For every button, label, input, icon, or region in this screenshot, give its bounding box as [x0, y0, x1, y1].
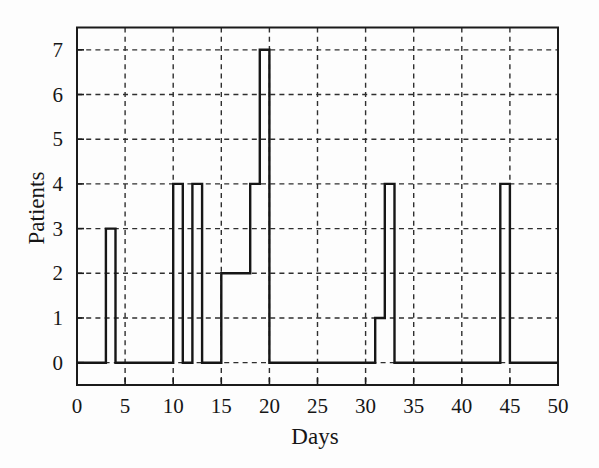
y-tick-labels: 01234567	[53, 38, 64, 375]
x-tick-label: 25	[307, 394, 328, 418]
y-tick-label: 1	[53, 306, 64, 330]
x-tick-label: 45	[499, 394, 520, 418]
x-tick-label: 5	[120, 394, 131, 418]
x-tick-label: 35	[403, 394, 424, 418]
figure-canvas: 05101520253035404550 01234567 Days Patie…	[0, 0, 599, 468]
y-tick-label: 2	[53, 261, 64, 285]
x-tick-label: 15	[211, 394, 232, 418]
x-tick-label: 50	[548, 394, 569, 418]
step-chart: 05101520253035404550 01234567 Days Patie…	[0, 0, 599, 468]
y-tick-label: 4	[53, 172, 64, 196]
y-axis-title: Patients	[24, 172, 49, 245]
y-tick-label: 6	[53, 83, 64, 107]
x-axis-title: Days	[291, 424, 338, 449]
x-tick-label: 0	[72, 394, 83, 418]
x-tick-label: 20	[259, 394, 280, 418]
x-tick-label: 10	[163, 394, 184, 418]
y-tick-label: 7	[53, 38, 64, 62]
y-tick-label: 0	[53, 351, 64, 375]
x-tick-label: 40	[451, 394, 472, 418]
y-tick-label: 5	[53, 127, 64, 151]
y-tick-label: 3	[53, 217, 64, 241]
y-axis-ticks	[77, 50, 84, 363]
x-axis-ticks	[77, 378, 558, 385]
x-tick-label: 30	[355, 394, 376, 418]
x-tick-labels: 05101520253035404550	[72, 394, 569, 418]
